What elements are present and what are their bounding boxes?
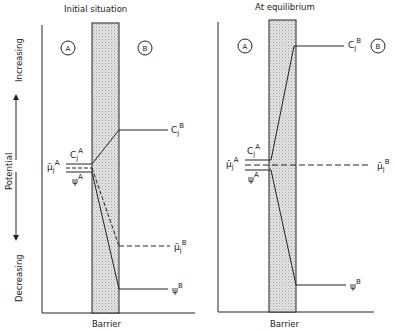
axis-potential-label: Potential (4, 153, 14, 190)
barrier-label: Barrier (270, 319, 299, 329)
psia-label: ψA (72, 173, 83, 186)
mua-label: μ̄jA (47, 159, 60, 174)
panel-equilibrium: At equilibrium Barrier A B CjA μ̄jA ψA C… (218, 2, 390, 329)
panel-initial: Initial situation Barrier A B CjA μ̄jA ψ… (42, 4, 195, 329)
cb-label: CjB (171, 122, 184, 137)
mua-label: μ̄jA (226, 156, 239, 171)
axis-increasing-label: Increasing (14, 38, 24, 82)
region-a-label: A (243, 43, 248, 51)
diagram-canvas: Increasing Potential Decreasing Initial … (0, 0, 394, 331)
region-b-label: B (376, 43, 381, 51)
ca-label: CjA (247, 143, 260, 158)
region-a-label: A (66, 45, 71, 53)
region-b-label: B (143, 45, 148, 53)
mub-label: μ̄jB (377, 158, 390, 173)
panel-title: At equilibrium (255, 2, 315, 12)
ca-label: CjA (70, 147, 83, 162)
panel-title: Initial situation (64, 4, 127, 14)
mub-label: μ̄jB (174, 239, 187, 254)
psib-label: ψB (172, 282, 183, 295)
axis-decreasing-label: Decreasing (14, 254, 24, 302)
psib-label: ψB (350, 278, 361, 291)
psia-label: ψA (248, 171, 259, 184)
barrier-label: Barrier (92, 319, 121, 329)
cb-label: CjB (348, 37, 361, 52)
potential-axis: Increasing Potential Decreasing (4, 38, 24, 302)
